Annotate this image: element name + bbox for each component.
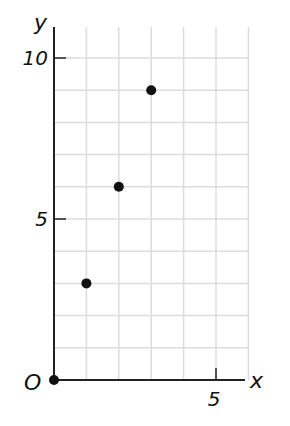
grid-lines <box>54 27 248 380</box>
data-points <box>49 85 156 385</box>
x-axis-label: x <box>249 368 264 393</box>
data-point <box>146 85 156 95</box>
x-tick-label: 5 <box>208 387 221 411</box>
data-point <box>81 278 91 288</box>
y-axis-label: y <box>33 10 48 35</box>
ticks: 5105 <box>23 46 221 411</box>
y-tick-label: 5 <box>35 207 48 231</box>
scatter-chart: 5105 y x O <box>0 0 290 426</box>
data-point <box>49 375 59 385</box>
y-tick-label: 10 <box>23 46 48 70</box>
data-point <box>114 182 124 192</box>
origin-label: O <box>24 370 41 395</box>
